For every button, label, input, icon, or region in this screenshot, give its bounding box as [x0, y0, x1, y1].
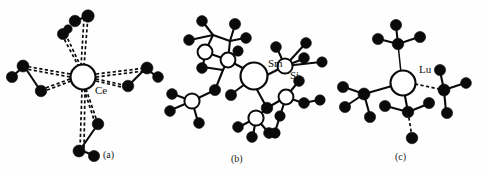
atom-lu-center: [391, 71, 416, 96]
caption-a: (a): [103, 149, 114, 161]
atom-sm-center: [241, 63, 268, 90]
atom-ce-center: [71, 65, 96, 90]
panel-c-lu-complex: Lu (c): [332, 0, 485, 176]
caption-c: (c): [395, 151, 406, 163]
panel-a-diagram: Ce (a): [0, 0, 165, 176]
atom-label-ce: Ce: [95, 84, 107, 96]
molecular-structures-figure: Ce (a): [0, 0, 485, 176]
panel-c-diagram: Lu (c): [332, 0, 485, 176]
atom-label-lu: Lu: [419, 63, 432, 75]
atom-label-sm: Sm: [268, 57, 283, 69]
atom-label-si: Si: [290, 69, 299, 81]
panel-a-ce-complex: Ce (a): [0, 0, 165, 176]
panel-b-diagram: Sm Si (b): [155, 0, 335, 176]
caption-b: (b): [231, 153, 243, 165]
panel-b-sm-complex: Sm Si (b): [155, 0, 335, 176]
